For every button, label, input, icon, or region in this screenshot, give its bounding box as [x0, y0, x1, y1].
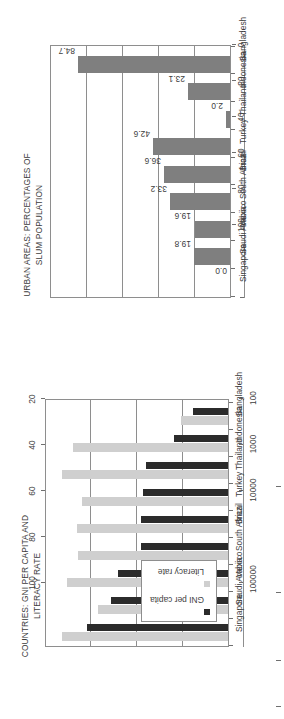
left-axis-label-60: 60 [27, 480, 37, 502]
cat-tick-2 [231, 240, 235, 241]
gni-legend: GNI per capita Literacy rate [141, 560, 217, 622]
gni-cat-tick-7 [229, 456, 233, 457]
bar-saudi-arabia [194, 248, 230, 265]
left-axis-tick-60 [41, 490, 45, 491]
gni-cat-tick-5 [229, 510, 233, 511]
slum-chart-title-line2: SLUM POPULATION [34, 100, 46, 350]
cat-label-mexico: Mexico [238, 200, 248, 227]
data-label-bangladesh: 84.7 [59, 46, 75, 56]
gni-chart-panel: COUNTRIES: GNI PER CAPITA AND LITERACY R… [0, 360, 284, 719]
bar-literacy-indonesia [73, 443, 228, 452]
plot-bottom-axis [230, 45, 231, 298]
gni-cat-tick-6 [229, 483, 233, 484]
left-axis-label-100: 100 [27, 572, 37, 594]
bar-literacy-brazil [77, 524, 228, 533]
bar-turkey [153, 138, 230, 155]
bar-brazil [164, 166, 230, 183]
slum-chart-title-line1: URBAN AREAS: PERCENTAGES OF [22, 100, 34, 350]
gni-plot-area: GNI per capita Literacy rate [45, 399, 228, 647]
left-axis-label-40: 40 [27, 434, 37, 456]
data-label-thailand: 2.0 [211, 101, 223, 111]
legend-label-literacy: Literacy rate [158, 567, 204, 577]
slum-chart-title: URBAN AREAS: PERCENTAGES OF SLUM POPULAT… [22, 100, 45, 350]
scan-mark-4 [276, 706, 281, 707]
right-axis-label-1000: 1000 [248, 429, 258, 459]
scan-mark-2 [276, 592, 281, 593]
left-axis-label-20: 20 [27, 388, 37, 410]
data-label-indonesia: 23.1 [169, 74, 185, 84]
cat-tick-9 [231, 46, 235, 47]
gridline-40 [158, 45, 159, 298]
bar-gni-indonesia [174, 435, 228, 442]
gni-cat-tick-1 [229, 618, 233, 619]
cat-label-turkey: Turkey [238, 119, 248, 144]
gni-plot-left-axis [45, 646, 229, 647]
bar-gni-thailand [146, 462, 228, 469]
bar-south-africa [170, 193, 230, 210]
gni-cat-tick-2 [229, 591, 233, 592]
left-axis-tick-40 [41, 444, 45, 445]
gni-cat-label-mexico: Mexico [234, 551, 244, 578]
gni-plot-right-axis [45, 399, 229, 400]
cat-label-brazil: Brazil [238, 150, 248, 171]
left-axis-label-80: 80 [27, 526, 37, 548]
bar-literacy-singapore [62, 632, 228, 641]
plot-right-axis [50, 45, 231, 46]
cat-tick-3 [231, 212, 235, 213]
cat-tick-6 [231, 129, 235, 130]
gridline-80 [86, 45, 87, 298]
plot-top-axis [50, 45, 51, 298]
bar-mexico [195, 221, 230, 238]
right-axis-label-100: 100 [248, 383, 258, 413]
gni-cat-label-brazil: Brazil [234, 503, 244, 524]
legend-swatch-literacy [204, 581, 210, 587]
value-tick-mark-20 [232, 80, 236, 81]
value-tick-mark-40 [232, 116, 236, 117]
value-tick-20 [240, 297, 244, 298]
gni-cat-label-bangladesh: Bangladesh [234, 372, 244, 416]
data-label-south-africa: 33.2 [151, 184, 167, 194]
gni-cat-tick-3 [229, 564, 233, 565]
gni-literacy-chart: COUNTRIES: GNI PER CAPITA AND LITERACY R… [0, 360, 284, 719]
cat-label-thailand: Thailand [238, 84, 248, 116]
gni-gridline-80 [90, 399, 91, 647]
gni-cat-tick-0 [229, 645, 233, 646]
cat-label-bangladesh: Bangladesh [238, 17, 248, 61]
legend-label-gni: GNI per capita [150, 595, 204, 605]
slum-chart-panel: URBAN AREAS: PERCENTAGES OF SLUM POPULAT… [0, 0, 284, 360]
right-axis-label-10000: 10000 [248, 475, 258, 505]
bar-gni-brazil [141, 516, 228, 523]
cat-tick-8 [231, 73, 235, 74]
data-label-singapore: 0.0 [215, 266, 227, 276]
data-label-turkey: 42.6 [134, 129, 150, 139]
bar-gni-bangladesh [193, 408, 228, 415]
value-tick-mark-100 [232, 224, 236, 225]
scan-mark-1 [276, 486, 281, 487]
value-tick-mark-60 [232, 152, 236, 153]
left-axis-tick-20 [41, 398, 45, 399]
gni-cat-tick-4 [229, 537, 233, 538]
cat-tick-5 [231, 157, 235, 158]
gni-plot-top-axis [45, 399, 46, 647]
legend-swatch-gni [204, 609, 210, 615]
cat-tick-4 [231, 184, 235, 185]
plot-left-axis [50, 297, 231, 298]
left-axis-tick-100 [41, 582, 45, 583]
bar-gni-singapore [87, 624, 228, 631]
bar-literacy-south-africa [78, 551, 228, 560]
right-axis-label-100000: 100000 [248, 559, 258, 599]
bar-literacy-bangladesh [181, 416, 228, 425]
data-label-brazil: 36.6 [145, 156, 161, 166]
bar-literacy-turkey [82, 497, 228, 506]
slum-plot-area: 0.0 19.8 19.6 33.2 36.6 42.6 2.0 23.1 84… [50, 45, 230, 298]
bar-gni-turkey [143, 489, 228, 496]
gni-cat-tick-9 [229, 402, 233, 403]
cat-tick-1 [231, 268, 235, 269]
gni-cat-label-turkey: Turkey [234, 472, 244, 497]
gni-plot-bottom-axis [228, 399, 229, 647]
slum-population-chart: URBAN AREAS: PERCENTAGES OF SLUM POPULAT… [0, 0, 284, 360]
gni-cat-tick-8 [229, 429, 233, 430]
bar-gni-south-africa [141, 543, 228, 550]
data-label-mexico: 19.6 [175, 211, 191, 221]
value-tick-mark-80 [232, 188, 236, 189]
